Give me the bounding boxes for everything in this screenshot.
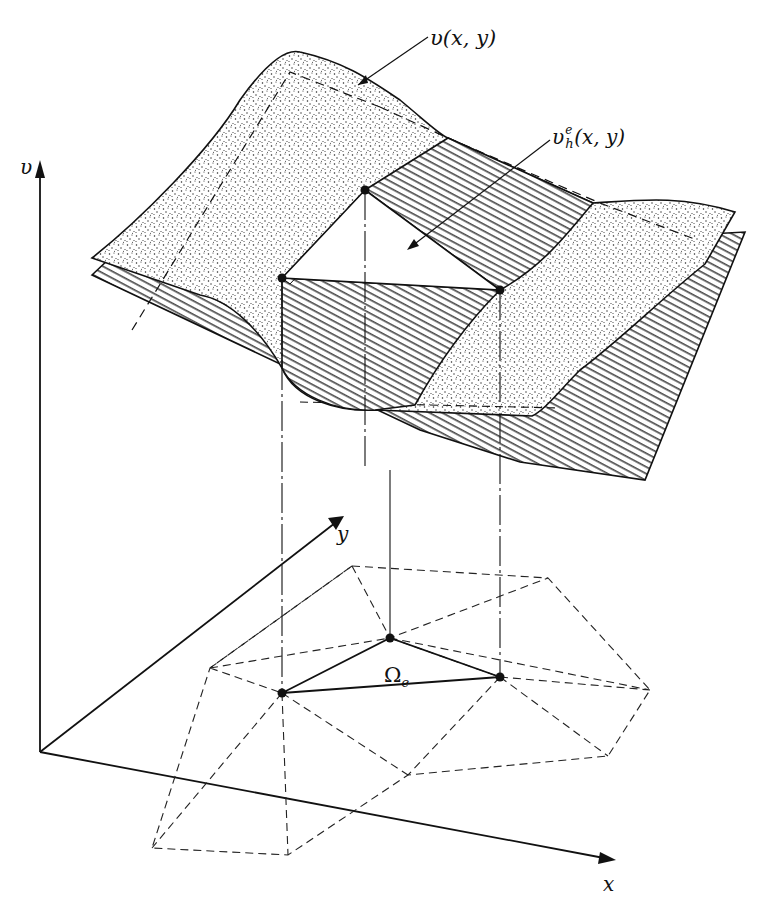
x-axis-label: x xyxy=(603,874,614,894)
element-subscript: e xyxy=(401,675,409,690)
v-axis-label: υ xyxy=(20,157,32,177)
surface-node-top xyxy=(361,186,370,195)
x-axis-line xyxy=(40,752,604,858)
approx-label-args: (x, y) xyxy=(574,125,625,149)
mesh-node-top xyxy=(386,634,395,643)
exact-surface-label: υ(x, y) xyxy=(430,28,496,49)
approx-label-sub: h xyxy=(565,137,573,150)
approx-label-sup: e xyxy=(565,124,572,136)
element-label: Ωe xyxy=(384,665,409,689)
v-axis-arrowhead xyxy=(35,160,45,178)
mesh-node-left xyxy=(278,689,287,698)
mesh-outer-boundary xyxy=(152,566,650,855)
triangular-mesh xyxy=(152,566,650,855)
surface-node-right xyxy=(496,286,505,295)
leader-exact-surface xyxy=(358,37,428,85)
mesh-node-right xyxy=(496,673,505,682)
surface-node-left xyxy=(278,274,287,283)
y-axis-line xyxy=(40,523,335,752)
element-symbol: Ω xyxy=(384,663,401,687)
y-axis-label: y xyxy=(337,524,348,544)
approx-label-base: υ xyxy=(552,125,564,149)
x-axis-arrowhead xyxy=(598,852,616,864)
approx-surface-label: υeh(x, y) xyxy=(552,127,625,147)
finite-element-diagram xyxy=(0,0,759,900)
mesh-interior-edges xyxy=(152,566,650,855)
